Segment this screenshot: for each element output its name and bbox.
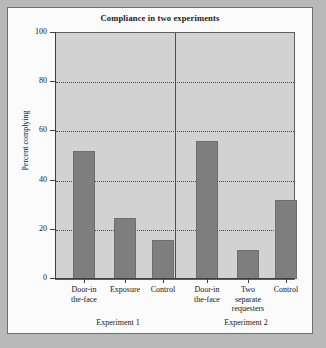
x-tick-mark-4 xyxy=(207,279,208,283)
y-tick-mark-60 xyxy=(50,130,55,131)
chart-title: Compliance in two experiments xyxy=(8,13,312,23)
y-tick-mark-100 xyxy=(50,32,55,33)
x-tick-mark-1 xyxy=(84,279,85,283)
x-tick-mark-5 xyxy=(248,279,249,283)
bar-exp1-door-in-the-face xyxy=(73,151,95,279)
bar-exp1-control xyxy=(152,240,174,279)
x-tick-mark-3 xyxy=(163,279,164,283)
x-category-label-6: Control xyxy=(257,285,315,295)
x-axis-line xyxy=(55,278,294,279)
x-category-label-5-line2: separate xyxy=(219,295,277,305)
bar-exp1-exposure xyxy=(114,218,136,280)
x-tick-mark-2 xyxy=(125,279,126,283)
bar-exp2-two-separate-requesters xyxy=(237,250,259,280)
bar-exp2-control xyxy=(275,200,297,279)
group-label-experiment-2: Experiment 2 xyxy=(191,318,301,327)
bar-exp2-door-in-the-face xyxy=(196,141,218,279)
y-tick-label-100: 100 xyxy=(21,27,47,36)
y-tick-mark-0 xyxy=(50,278,55,279)
y-tick-mark-40 xyxy=(50,180,55,181)
x-category-label-6-line1: Control xyxy=(257,285,315,295)
y-axis-title: Percent complying xyxy=(21,81,30,201)
y-tick-mark-80 xyxy=(50,81,55,82)
y-tick-label-0: 0 xyxy=(21,273,47,282)
figure-frame: Compliance in two experiments 100 80 60 … xyxy=(7,7,313,334)
y-tick-label-20: 20 xyxy=(21,224,47,233)
x-tick-mark-6 xyxy=(286,279,287,283)
x-category-label-1-line2: the-face xyxy=(55,295,113,305)
x-category-label-5-line3: requesters xyxy=(219,304,277,314)
experiment-panel-divider xyxy=(175,33,176,279)
y-tick-mark-20 xyxy=(50,229,55,230)
plot-area xyxy=(55,32,295,280)
y-axis-line xyxy=(55,32,56,279)
group-label-experiment-1: Experiment 1 xyxy=(63,318,173,327)
